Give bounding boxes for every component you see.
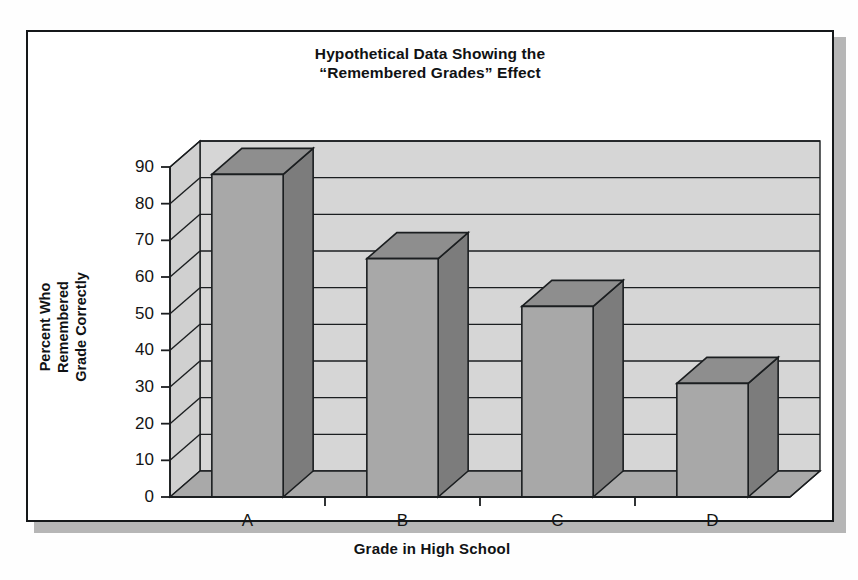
bar-C	[522, 280, 623, 497]
x-tick-label-C: C	[528, 511, 588, 531]
y-tick-label-80: 80	[110, 194, 154, 214]
bar-D	[677, 357, 778, 497]
bar-B	[367, 233, 468, 497]
bar-side-face	[438, 233, 468, 497]
y-tick-label-40: 40	[110, 340, 154, 360]
bar-front-face	[212, 174, 283, 497]
chart-left-wall	[170, 141, 200, 497]
y-tick-label-70: 70	[110, 230, 154, 250]
figure-frame: Hypothetical Data Showing the “Remembere…	[26, 30, 834, 522]
y-tick-label-10: 10	[110, 450, 154, 470]
bar-front-face	[677, 383, 748, 497]
x-tick-label-D: D	[683, 511, 743, 531]
y-axis-title-text: Percent WhoRememberedGrade Correctly	[36, 272, 90, 382]
bar-front-face	[522, 306, 593, 497]
y-tick-label-0: 0	[110, 487, 154, 507]
y-tick-label-30: 30	[110, 377, 154, 397]
bar-front-face	[367, 259, 438, 497]
bar-A	[212, 148, 313, 497]
bar-side-face	[593, 280, 623, 497]
y-axis-title-line-3: Grade Correctly	[72, 272, 90, 382]
y-tick-label-60: 60	[110, 267, 154, 287]
y-axis-title-line-1: Percent Who	[36, 272, 54, 382]
figure-page: Hypothetical Data Showing the “Remembere…	[0, 0, 858, 580]
x-tick-label-A: A	[218, 511, 278, 531]
y-tick-label-50: 50	[110, 304, 154, 324]
x-tick-label-B: B	[373, 511, 433, 531]
bar-side-face	[283, 148, 313, 497]
y-tick-label-20: 20	[110, 414, 154, 434]
y-axis-title-line-2: Remembered	[54, 272, 72, 382]
x-axis-title: Grade in High School	[28, 540, 836, 557]
y-tick-label-90: 90	[110, 157, 154, 177]
y-axis-title: Percent WhoRememberedGrade Correctly	[34, 182, 92, 472]
bar-chart-3d: 0102030405060708090 ABCD Percent WhoReme…	[28, 32, 832, 520]
